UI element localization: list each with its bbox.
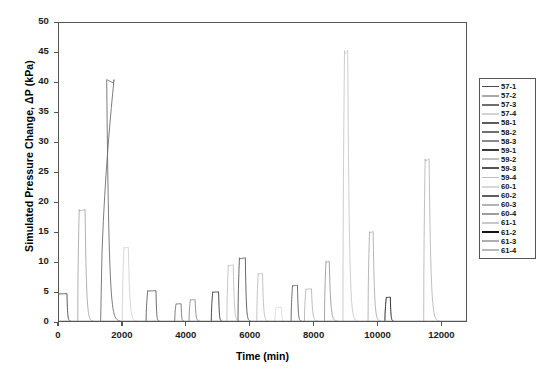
x-axis-tick-label: 12000 xyxy=(428,329,454,340)
legend-color-swatch xyxy=(482,158,499,160)
legend-item[interactable]: 60-2 xyxy=(482,191,533,200)
y-axis-tick-label: 5 xyxy=(44,285,49,296)
legend-color-swatch xyxy=(482,249,499,251)
series-line xyxy=(101,80,121,321)
legend-color-swatch xyxy=(482,167,499,169)
series-line xyxy=(238,258,251,321)
y-axis-tick-label: 50 xyxy=(38,15,49,26)
legend-color-swatch xyxy=(482,177,499,179)
legend-color-swatch xyxy=(482,195,499,197)
x-axis-tick-label: 8000 xyxy=(303,329,324,340)
x-axis-tick-mark xyxy=(121,322,122,326)
legend-item-label: 58-2 xyxy=(501,128,516,137)
series-line xyxy=(189,300,200,321)
series-line xyxy=(122,247,137,321)
legend-color-swatch xyxy=(482,122,499,124)
legend-item-label: 60-3 xyxy=(501,200,516,209)
legend-item[interactable]: 61-2 xyxy=(482,228,533,237)
legend-item[interactable]: 61-3 xyxy=(482,237,533,246)
x-axis-tick-mark xyxy=(313,322,314,326)
y-axis-tick-label: 35 xyxy=(38,105,49,116)
y-axis: 05101520253035404550 xyxy=(0,22,58,322)
legend-color-swatch xyxy=(482,231,499,233)
legend-color-swatch xyxy=(482,186,499,188)
legend-color-swatch xyxy=(482,240,499,242)
legend-item[interactable]: 57-4 xyxy=(482,109,533,118)
legend-color-swatch xyxy=(482,131,499,133)
legend-item-label: 60-2 xyxy=(501,191,516,200)
series-line xyxy=(59,294,71,321)
series-line xyxy=(291,285,301,321)
legend-item[interactable]: 60-4 xyxy=(482,209,533,218)
legend-item-label: 61-2 xyxy=(501,228,516,237)
x-axis-tick-label: 4000 xyxy=(175,329,196,340)
legend-item-label: 61-4 xyxy=(501,246,516,255)
legend-item-label: 60-4 xyxy=(501,209,516,218)
legend-item-label: 57-4 xyxy=(501,109,516,118)
legend-item[interactable]: 61-4 xyxy=(482,246,533,255)
series-line xyxy=(325,261,338,321)
legend-item-label: 60-1 xyxy=(501,182,516,191)
x-axis-tick-mark xyxy=(185,322,186,326)
legend-item-label: 57-3 xyxy=(501,100,516,109)
legend-item-label: 58-1 xyxy=(501,118,516,127)
series-line xyxy=(343,50,357,321)
plot-area xyxy=(58,22,467,322)
y-axis-tick-label: 20 xyxy=(38,195,49,206)
legend-item-label: 57-1 xyxy=(501,82,516,91)
series-line xyxy=(424,159,440,321)
x-axis-tick-mark xyxy=(441,322,442,326)
legend-color-swatch xyxy=(482,149,499,151)
legend-item-label: 59-3 xyxy=(501,164,516,173)
x-axis-tick-mark xyxy=(57,322,58,326)
y-axis-tick-label: 10 xyxy=(38,255,49,266)
legend-color-swatch xyxy=(482,204,499,206)
legend-item[interactable]: 58-2 xyxy=(482,127,533,136)
legend-item-label: 61-3 xyxy=(501,237,516,246)
legend-color-swatch xyxy=(482,113,499,115)
legend-item[interactable]: 58-1 xyxy=(482,118,533,127)
y-axis-tick-label: 0 xyxy=(44,315,49,326)
legend-item[interactable]: 59-2 xyxy=(482,155,533,164)
x-axis-tick-label: 10000 xyxy=(364,329,390,340)
legend-item[interactable]: 57-3 xyxy=(482,100,533,109)
legend-item[interactable]: 59-3 xyxy=(482,164,533,173)
chart-figure: Simulated Pressure Change, ΔP (kPa) 0510… xyxy=(0,0,551,380)
legend-color-swatch xyxy=(482,95,499,97)
series-line xyxy=(175,304,184,321)
legend-item-label: 61-1 xyxy=(501,218,516,227)
series-line xyxy=(275,307,284,321)
legend-color-swatch xyxy=(482,222,499,224)
y-axis-tick-label: 45 xyxy=(38,45,49,56)
x-axis-tick-mark xyxy=(377,322,378,326)
y-axis-tick-label: 25 xyxy=(38,165,49,176)
x-axis-tick-label: 0 xyxy=(55,329,60,340)
legend: 57-157-257-357-458-158-258-359-159-259-3… xyxy=(479,78,536,259)
legend-item-label: 59-1 xyxy=(501,146,516,155)
series-line xyxy=(78,210,94,321)
series-line xyxy=(146,291,159,321)
y-axis-tick-label: 30 xyxy=(38,135,49,146)
legend-item[interactable]: 59-4 xyxy=(482,173,533,182)
legend-color-swatch xyxy=(482,86,499,88)
x-axis-tick-label: 2000 xyxy=(111,329,132,340)
y-axis-tick-label: 15 xyxy=(38,225,49,236)
legend-item[interactable]: 60-1 xyxy=(482,182,533,191)
legend-item[interactable]: 58-3 xyxy=(482,137,533,146)
series-layer xyxy=(59,23,466,321)
legend-item[interactable]: 57-2 xyxy=(482,91,533,100)
legend-item[interactable]: 61-1 xyxy=(482,218,533,227)
y-axis-tick-label: 40 xyxy=(38,75,49,86)
x-axis-title: Time (min) xyxy=(58,350,467,362)
series-line xyxy=(257,273,269,321)
legend-item-label: 58-3 xyxy=(501,137,516,146)
legend-color-swatch xyxy=(482,213,499,215)
x-axis-tick-label: 6000 xyxy=(239,329,260,340)
series-line xyxy=(304,289,318,321)
legend-item[interactable]: 57-1 xyxy=(482,82,533,91)
x-axis-tick-mark xyxy=(249,322,250,326)
legend-item[interactable]: 60-3 xyxy=(482,200,533,209)
legend-color-swatch xyxy=(482,104,499,106)
legend-item[interactable]: 59-1 xyxy=(482,146,533,155)
legend-item-label: 59-2 xyxy=(501,155,516,164)
